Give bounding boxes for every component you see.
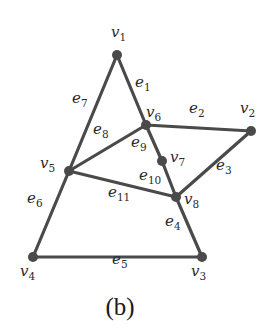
edge-e3	[176, 131, 251, 197]
node-v3	[197, 252, 207, 262]
labels-group: e1e2e3e4e5e6e7e8e9e10e11v1v2v3v4v5v6v7v8	[20, 23, 255, 282]
edge-label-e10: e10	[139, 166, 161, 186]
node-v6	[141, 120, 151, 130]
edge-e7	[69, 55, 117, 171]
node-label-v7: v7	[170, 148, 185, 168]
node-label-v1: v1	[111, 23, 126, 43]
node-v2	[246, 126, 256, 136]
edge-label-e9: e9	[131, 133, 147, 153]
node-label-v5: v5	[40, 154, 55, 174]
edge-e10	[162, 161, 176, 197]
edge-e9	[146, 125, 162, 161]
graph-diagram: e1e2e3e4e5e6e7e8e9e10e11v1v2v3v4v5v6v7v8…	[0, 0, 266, 334]
edge-label-e2: e2	[189, 99, 205, 119]
node-label-v8: v8	[184, 190, 199, 210]
edge-label-e7: e7	[72, 89, 88, 109]
node-v1	[112, 50, 122, 60]
edge-label-e3: e3	[216, 156, 232, 176]
edge-label-e6: e6	[27, 189, 43, 209]
edge-label-e1: e1	[135, 73, 151, 93]
figure-caption: (b)	[105, 293, 134, 321]
node-label-v6: v6	[146, 103, 161, 123]
edge-e6	[33, 171, 69, 257]
node-v5	[64, 166, 74, 176]
node-v8	[171, 192, 181, 202]
edge-label-e8: e8	[93, 120, 109, 140]
edge-label-e5: e5	[112, 250, 128, 270]
node-label-v2: v2	[240, 99, 255, 119]
edge-label-e4: e4	[165, 212, 181, 232]
node-v4	[28, 252, 38, 262]
node-label-v4: v4	[20, 262, 35, 282]
edge-e2	[146, 125, 251, 131]
node-v7	[157, 156, 167, 166]
node-label-v3: v3	[191, 262, 206, 282]
